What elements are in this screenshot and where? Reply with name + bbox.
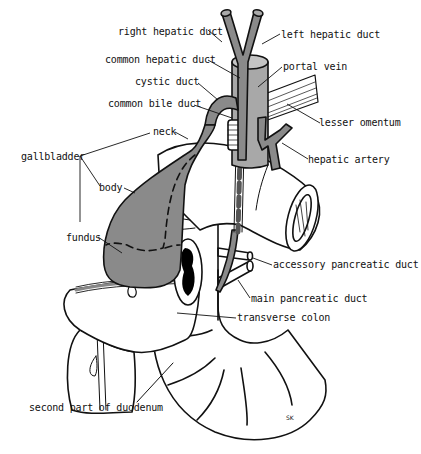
label-transverse-colon: transverse colon	[237, 312, 330, 324]
label-left-hepatic-duct: left hepatic duct	[281, 29, 380, 41]
label-common-bile-duct: common bile duct	[108, 98, 201, 110]
callout-left-hepatic-duct	[262, 34, 280, 44]
label-second-part-of-duodenum: second part of duodenum	[29, 402, 163, 414]
label-gallbladder: gallbladder	[21, 151, 85, 163]
artist-signature: SK	[286, 414, 295, 421]
callout-body	[124, 188, 135, 193]
anatomy-diagram: SK	[0, 0, 421, 454]
label-accessory-pancreatic-duct: accessory pancreatic duct	[273, 259, 419, 271]
callout-neck	[175, 132, 188, 139]
label-hepatic-artery: hepatic artery	[308, 154, 390, 166]
label-right-hepatic-duct: right hepatic duct	[118, 26, 223, 38]
callout-main-pancreatic-duct	[238, 280, 250, 298]
label-common-hepatic-duct: common hepatic duct	[105, 54, 216, 66]
callout-hepatic-artery	[282, 143, 308, 159]
label-portal-vein: portal vein	[283, 61, 347, 73]
label-cystic-duct: cystic duct	[135, 76, 199, 88]
label-fundus: fundus	[66, 232, 101, 244]
label-main-pancreatic-duct: main pancreatic duct	[251, 293, 367, 305]
callout-accessory-pancreatic-duct	[253, 258, 272, 265]
label-body: body	[99, 182, 122, 194]
accessory-duct-opening	[248, 252, 253, 260]
main-duct-opening	[247, 261, 253, 271]
label-neck: neck	[153, 126, 176, 138]
label-lesser-omentum: lesser omentum	[319, 117, 401, 129]
